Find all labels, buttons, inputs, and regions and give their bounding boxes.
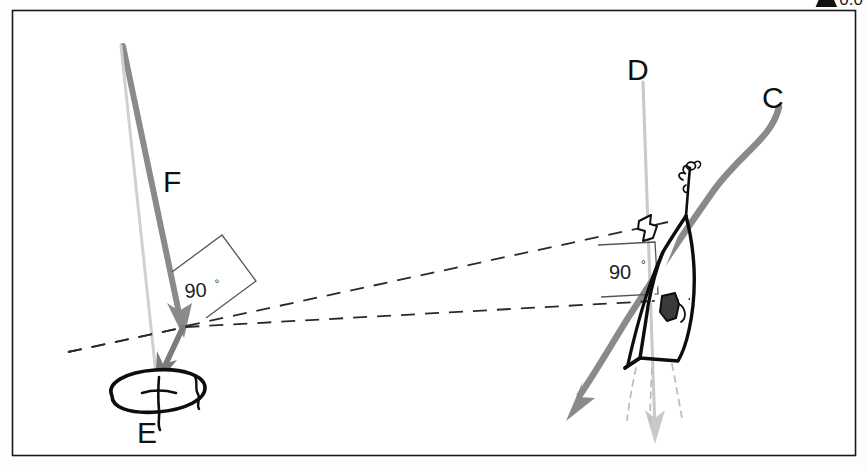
right-angle-right-label: 90: [609, 261, 631, 283]
right-angle-right-degree: °: [641, 258, 646, 272]
diagram-canvas: 90 ° 90 °: [0, 0, 867, 471]
label-c: C: [762, 81, 784, 114]
label-f: F: [163, 165, 181, 198]
right-angle-left-label: 90: [184, 278, 208, 301]
label-e: E: [137, 416, 157, 449]
label-d: D: [627, 53, 649, 86]
